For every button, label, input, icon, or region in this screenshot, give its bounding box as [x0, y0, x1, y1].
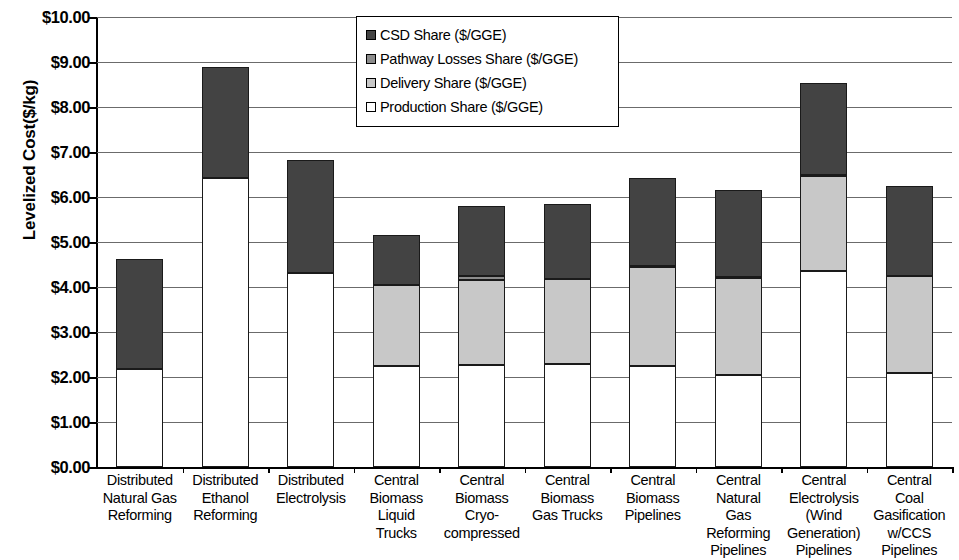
bar-segment-pathway-losses[interactable]: [715, 277, 762, 279]
y-axis-tick-mark: [88, 332, 97, 334]
x-axis-category-label-line: (Wind: [781, 507, 867, 525]
bar-segment-delivery[interactable]: [629, 267, 676, 366]
bar-segment-delivery[interactable]: [886, 276, 933, 373]
y-axis-tick-labels: $0.00$1.00$2.00$3.00$4.00$5.00$6.00$7.00…: [0, 0, 90, 550]
y-axis-tick-label: $8.00: [4, 99, 90, 116]
bar-segment-production[interactable]: [715, 375, 762, 467]
x-axis-category-label-line: Central: [354, 472, 440, 490]
bar-segment-csd[interactable]: [287, 160, 334, 273]
y-axis-tick-label: $1.00: [4, 414, 90, 431]
bar-group[interactable]: [886, 17, 933, 467]
bar-segment-delivery[interactable]: [373, 285, 420, 366]
x-axis-category-label: CentralBiomassGas Trucks: [525, 472, 611, 525]
bar-segment-production[interactable]: [202, 178, 249, 467]
x-axis-category-label-line: Reforming: [183, 507, 269, 525]
bar-segment-production[interactable]: [373, 366, 420, 467]
x-axis-category-label-line: Biomass: [610, 490, 696, 508]
x-axis-category-label-line: Biomass: [439, 490, 525, 508]
x-axis-category-label-line: Biomass: [525, 490, 611, 508]
x-axis-category-label-line: Gas Trucks: [525, 507, 611, 525]
bar-segment-delivery[interactable]: [715, 278, 762, 375]
bar-segment-production[interactable]: [287, 273, 334, 467]
x-axis-category-label-line: Reforming: [696, 525, 782, 543]
x-axis-category-label-line: Ethanol: [183, 490, 269, 508]
x-axis-category-label: CentralBiomassLiquidTrucks: [354, 472, 440, 542]
bar-segment-production[interactable]: [800, 271, 847, 467]
x-axis-category-label-line: Reforming: [97, 507, 183, 525]
bar-group[interactable]: [800, 17, 847, 467]
bar-group[interactable]: [715, 17, 762, 467]
chart-legend: CSD Share ($/GGE)Pathway Losses Share ($…: [356, 16, 619, 127]
legend-swatch-icon: [366, 30, 376, 40]
bar-segment-pathway-losses[interactable]: [458, 276, 505, 280]
bar-segment-delivery[interactable]: [544, 279, 591, 365]
x-axis-category-label-line: Electrolysis: [268, 490, 354, 508]
y-axis-tick-mark: [88, 377, 97, 379]
x-axis-category-label-line: Central: [610, 472, 696, 490]
x-axis-line: [89, 467, 952, 469]
x-axis-category-label-line: Distributed: [97, 472, 183, 490]
y-axis-tick-label: $6.00: [4, 189, 90, 206]
x-axis-category-label: DistributedEthanolReforming: [183, 472, 269, 525]
legend-swatch-icon: [366, 102, 376, 112]
legend-item[interactable]: Pathway Losses Share ($/GGE): [366, 47, 611, 71]
y-axis-tick-mark: [88, 107, 97, 109]
x-axis-category-label-line: Central: [781, 472, 867, 490]
bar-group[interactable]: [116, 17, 163, 467]
y-axis-tick-label: $7.00: [4, 144, 90, 161]
y-axis-tick-label: $9.00: [4, 54, 90, 71]
x-axis-category-label-line: compressed: [439, 525, 525, 543]
y-axis-tick-label: $0.00: [4, 459, 90, 476]
x-axis-category-label: CentralCoalGasificationw/CCSPipelines: [867, 472, 953, 560]
bar-segment-pathway-losses[interactable]: [629, 266, 676, 268]
x-axis-category-label-line: Coal: [867, 490, 953, 508]
y-axis-tick-mark: [88, 242, 97, 244]
x-axis-category-label-line: Gasification: [867, 507, 953, 525]
bar-segment-csd[interactable]: [800, 83, 847, 175]
bar-segment-delivery[interactable]: [458, 280, 505, 366]
y-axis-tick-mark: [88, 62, 97, 64]
y-axis-tick-label: $3.00: [4, 324, 90, 341]
bar-segment-csd[interactable]: [629, 178, 676, 266]
x-axis-category-label: CentralElectrolysis(WindGeneration)Pipel…: [781, 472, 867, 560]
x-axis-category-label: CentralBiomassPipelines: [610, 472, 696, 525]
bar-group[interactable]: [629, 17, 676, 467]
bar-segment-csd[interactable]: [544, 204, 591, 279]
x-axis-category-label-line: Biomass: [354, 490, 440, 508]
bar-segment-csd[interactable]: [373, 235, 420, 285]
bar-segment-pathway-losses[interactable]: [800, 175, 847, 177]
x-axis-category-label-line: w/CCS: [867, 525, 953, 543]
x-axis-category-label-line: Central: [867, 472, 953, 490]
bar-segment-production[interactable]: [886, 373, 933, 467]
y-axis-tick-mark: [88, 467, 97, 469]
x-axis-category-label-line: Natural: [696, 490, 782, 508]
x-axis-category-label-line: Central: [525, 472, 611, 490]
bar-segment-production[interactable]: [458, 365, 505, 467]
bar-segment-csd[interactable]: [886, 186, 933, 276]
legend-item[interactable]: Delivery Share ($/GGE): [366, 71, 611, 95]
x-axis-category-label: CentralNaturalGasReformingPipelines: [696, 472, 782, 560]
bar-segment-delivery[interactable]: [800, 176, 847, 271]
legend-item[interactable]: Production Share ($/GGE): [366, 95, 611, 119]
bar-segment-production[interactable]: [544, 364, 591, 467]
legend-item-label: Production Share ($/GGE): [380, 99, 543, 115]
y-axis-tick-mark: [88, 287, 97, 289]
legend-item-label: Pathway Losses Share ($/GGE): [380, 51, 578, 67]
x-axis-category-label-line: Pipelines: [781, 542, 867, 560]
bar-segment-csd[interactable]: [458, 206, 505, 276]
y-axis-tick-mark: [88, 422, 97, 424]
x-axis-category-label-line: Cryo-: [439, 507, 525, 525]
legend-item-label: CSD Share ($/GGE): [380, 27, 506, 43]
x-axis-category-label-line: Distributed: [183, 472, 269, 490]
bar-group[interactable]: [287, 17, 334, 467]
x-axis-category-labels: DistributedNatural GasReformingDistribut…: [97, 472, 952, 550]
bar-segment-csd[interactable]: [202, 67, 249, 179]
x-axis-category-label-line: Generation): [781, 525, 867, 543]
bar-segment-production[interactable]: [629, 366, 676, 467]
bar-segment-production[interactable]: [116, 369, 163, 467]
bar-segment-csd[interactable]: [116, 259, 163, 369]
legend-item[interactable]: CSD Share ($/GGE): [366, 23, 611, 47]
bar-group[interactable]: [202, 17, 249, 467]
bar-segment-csd[interactable]: [715, 190, 762, 277]
